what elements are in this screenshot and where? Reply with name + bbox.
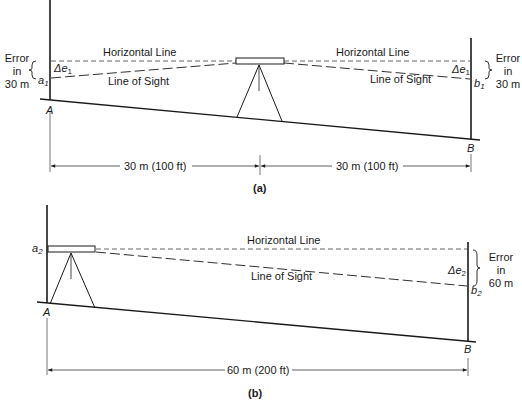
ground-line-b <box>37 302 476 342</box>
error-label-right-b: Error in 60 m <box>484 251 518 290</box>
station-b-label-b: B <box>464 343 471 355</box>
delta-e1-left: Δe1 <box>54 62 72 74</box>
brace-right-a <box>485 61 492 79</box>
level-instrument-b <box>48 246 95 252</box>
horizontal-line-label-b: Horizontal Line <box>247 234 320 246</box>
horizontal-line-label-left-a: Horizontal Line <box>103 46 176 58</box>
caption-a: (a) <box>253 182 266 194</box>
station-b-label: B <box>467 142 474 154</box>
caption-b: (b) <box>248 387 262 399</box>
panel-a-geometry <box>29 0 492 175</box>
horizontal-line-label-right-a: Horizontal Line <box>336 46 409 58</box>
error-label-left-a: Error in 30 m <box>2 52 32 91</box>
panel-b-geometry <box>37 205 480 376</box>
diagram-canvas <box>0 0 522 401</box>
point-a1: a1 <box>38 74 49 86</box>
line-of-sight-label-left-a: Line of Sight <box>108 75 169 87</box>
dimension-b: 60 m (200 ft) <box>227 364 289 376</box>
dimension-left-a: 30 m (100 ft) <box>124 160 186 172</box>
line-of-sight-label-b: Line of Sight <box>251 270 312 282</box>
station-a-label: A <box>46 104 53 116</box>
delta-e1-right: Δe1 <box>452 63 470 75</box>
point-b2: b2 <box>471 284 482 296</box>
ground-line-a <box>40 99 480 140</box>
brace-right-b <box>473 250 480 286</box>
dimension-right-a: 30 m (100 ft) <box>336 160 398 172</box>
delta-e2: Δe2 <box>448 264 466 276</box>
error-label-right-a: Error in 30 m <box>493 52 522 91</box>
level-instrument-a <box>236 58 284 64</box>
point-a2: a2 <box>32 242 43 254</box>
line-of-sight-label-right-a: Line of Sight <box>370 73 431 85</box>
point-b1: b1 <box>474 77 485 89</box>
station-a-label-b: A <box>43 306 50 318</box>
